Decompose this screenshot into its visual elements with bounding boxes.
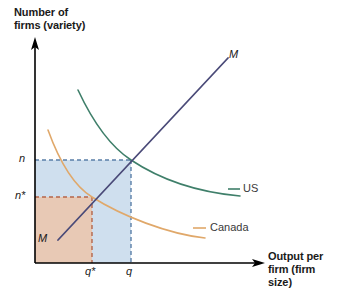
y-tick-label-n-star: n* xyxy=(15,189,25,202)
economics-chart: Number of firms (variety) Output per fir… xyxy=(0,0,341,298)
curve-label-us: US xyxy=(243,182,258,195)
curve-label-m-top: M xyxy=(229,48,238,61)
shaded-region-canada xyxy=(35,197,92,263)
curve-label-canada: Canada xyxy=(210,221,249,234)
line-m xyxy=(58,58,228,240)
x-axis-title: Output per firm (firm size) xyxy=(268,250,323,289)
x-tick-label-q-star: q* xyxy=(85,265,95,278)
curve-label-m-bottom: M xyxy=(38,232,47,245)
y-tick-label-n: n xyxy=(19,152,25,165)
x-tick-label-q: q xyxy=(126,265,132,278)
y-axis-title: Number of firms (variety) xyxy=(14,6,85,32)
